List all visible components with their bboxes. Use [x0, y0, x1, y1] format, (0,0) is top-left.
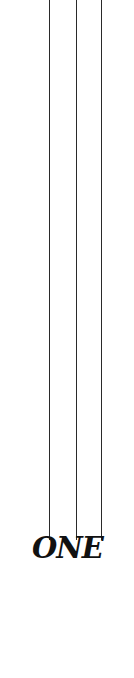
- chapter-title: ONE: [32, 532, 112, 564]
- vertical-line-1: [49, 0, 50, 540]
- vertical-line-2: [76, 0, 77, 540]
- vertical-line-3: [101, 0, 102, 540]
